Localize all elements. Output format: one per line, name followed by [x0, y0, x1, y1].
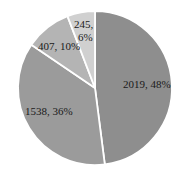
slice-label-245-line2: 6%	[78, 31, 93, 43]
slice-label-1538: 1538, 36%	[25, 105, 73, 117]
slice-label-2019: 2019, 48%	[123, 78, 171, 90]
slice-label-407: 407, 10%	[38, 40, 80, 52]
pie-chart: 2019, 48% 1538, 36% 407, 10% 245, 6%	[0, 0, 180, 181]
slice-label-245-line1: 245,	[74, 18, 94, 30]
